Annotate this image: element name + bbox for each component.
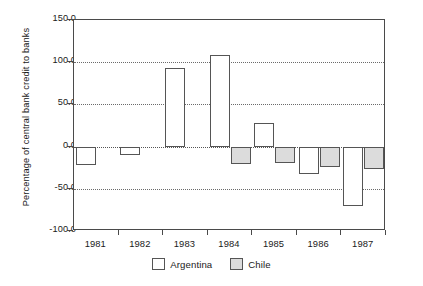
chart-figure: Percentage of central bank credit to ban…: [0, 0, 423, 286]
x-tick-label-1983: 1983: [161, 238, 207, 249]
x-tick-mark-1984: [251, 230, 252, 235]
bar-argentina-1984: [210, 55, 230, 147]
x-tick-mark-1983: [207, 230, 208, 235]
plot-area: [73, 19, 385, 230]
y-tick-label-100.0: 100.0: [28, 55, 76, 65]
x-tick-label-1986: 1986: [295, 238, 341, 249]
legend-swatch-chile-icon: [230, 258, 243, 270]
legend-label-chile: Chile: [248, 259, 270, 270]
x-tick-label-1987: 1987: [340, 238, 386, 249]
x-tick-label-1984: 1984: [206, 238, 252, 249]
legend-entry-argentina[interactable]: Argentina: [152, 258, 212, 270]
bar-argentina-1983: [165, 68, 185, 147]
bar-argentina-1985: [254, 123, 274, 147]
x-tick-label-1982: 1982: [117, 238, 163, 249]
bar-argentina-1987: [343, 147, 363, 206]
legend-swatch-argentina-icon: [152, 258, 165, 270]
x-tick-mark-1985: [296, 230, 297, 235]
bar-chile-1984: [231, 147, 251, 165]
legend-entry-chile[interactable]: Chile: [230, 258, 270, 270]
chart-legend: ArgentinaChile: [0, 258, 423, 270]
x-tick-mark-1981: [118, 230, 119, 235]
gridline--50.0: [74, 189, 384, 190]
x-tick-mark-1986: [340, 230, 341, 235]
bar-argentina-1981: [76, 147, 96, 166]
plot-inner: [74, 20, 384, 229]
y-tick-label-50.0: 50.0: [28, 97, 76, 107]
bar-chile-1987: [364, 147, 384, 170]
y-tick-label-0.0: 0.0: [28, 140, 76, 150]
x-tick-label-1981: 1981: [72, 238, 118, 249]
bar-argentina-1982: [120, 147, 140, 155]
bar-chile-1986: [320, 147, 340, 167]
x-tick-mark-1982: [162, 230, 163, 235]
x-tick-label-1985: 1985: [251, 238, 297, 249]
y-tick-label-150.0: 150.0: [28, 13, 76, 23]
bar-argentina-1986: [299, 147, 319, 175]
y-tick-label--100.0: -100.0: [28, 224, 76, 234]
legend-label-argentina: Argentina: [170, 259, 212, 270]
bar-chile-1985: [275, 147, 295, 163]
y-axis-title: Percentage of central bank credit to ban…: [21, 9, 31, 225]
y-tick-mark--100.0: [67, 230, 73, 231]
x-tick-mark-1987: [385, 230, 386, 235]
y-tick-label--50.0: -50.0: [28, 182, 76, 192]
